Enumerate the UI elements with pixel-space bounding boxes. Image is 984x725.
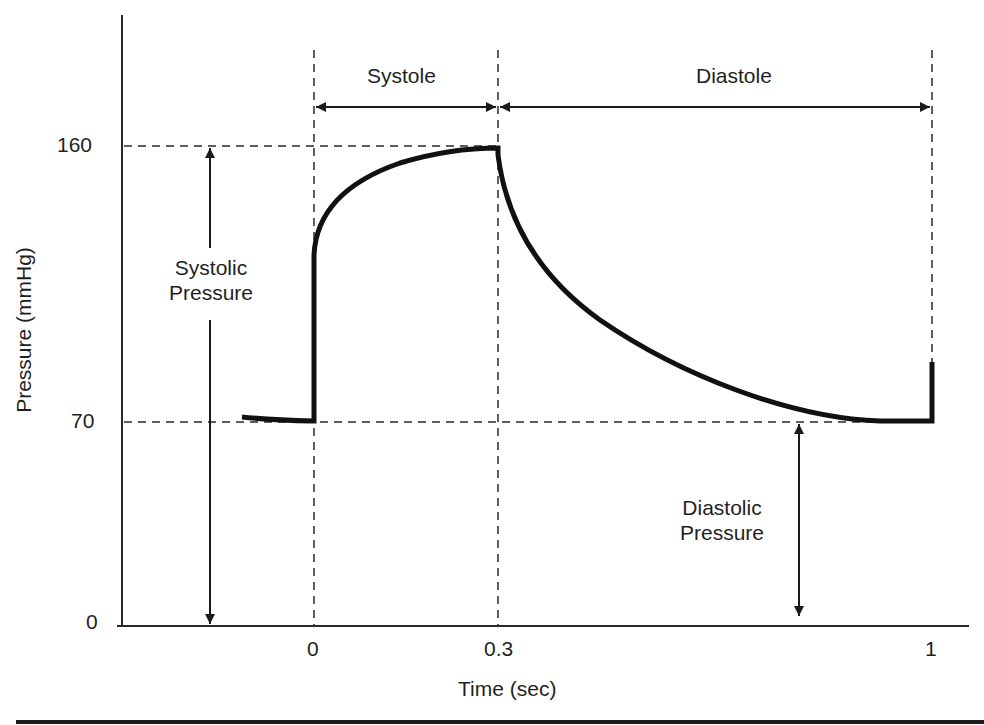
pressure-curve: [242, 148, 932, 421]
diastolic-label-line2: Pressure: [668, 520, 776, 545]
y-tick-0: 0: [86, 609, 98, 634]
diastole-label: Diastole: [696, 63, 772, 88]
x-tick-0: 0: [307, 636, 319, 661]
y-axis-label: Pressure (mmHg): [12, 247, 36, 413]
systolic-pressure-label: Systolic Pressure: [160, 255, 262, 305]
y-tick-70: 70: [71, 408, 94, 433]
systolic-label-line2: Pressure: [160, 280, 262, 305]
x-axis-label: Time (sec): [458, 676, 556, 701]
systolic-label-line1: Systolic: [160, 255, 262, 280]
x-tick-0-3: 0.3: [484, 636, 513, 661]
y-tick-160: 160: [57, 132, 92, 157]
systole-label: Systole: [367, 63, 436, 88]
diastolic-label-line1: Diastolic: [668, 495, 776, 520]
diastolic-pressure-label: Diastolic Pressure: [668, 495, 776, 545]
pressure-diagram: [0, 0, 984, 725]
x-tick-1: 1: [925, 636, 937, 661]
